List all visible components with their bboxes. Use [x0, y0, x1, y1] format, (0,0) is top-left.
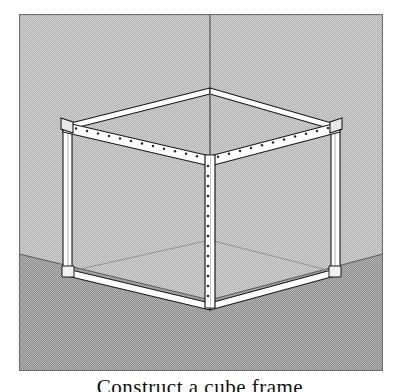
room-scene: [19, 14, 383, 371]
corner-connector-bottom-right: [329, 266, 341, 277]
scene-svg: [19, 14, 383, 371]
left-post: [63, 122, 72, 276]
right-post: [331, 122, 340, 276]
illustration-panel: [19, 14, 383, 371]
front-center-post: [205, 155, 215, 308]
corner-connector-bottom-left: [62, 266, 74, 277]
figure-page: Construct a cube frame: [0, 0, 400, 392]
figure-caption: Construct a cube frame: [0, 374, 400, 392]
